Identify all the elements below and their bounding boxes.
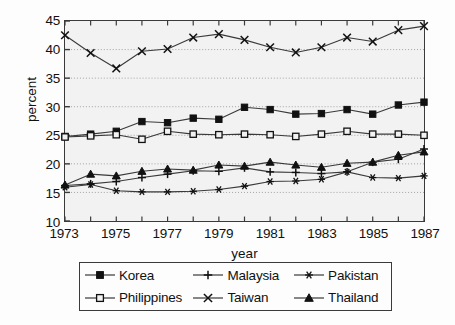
open-square-icon bbox=[84, 291, 116, 305]
y-tick-40: 40 bbox=[45, 41, 60, 56]
y-tick-15: 15 bbox=[45, 186, 60, 201]
x-tick-1981: 1981 bbox=[256, 226, 285, 241]
legend-item-taiwan[interactable]: Taiwan bbox=[192, 287, 293, 310]
legend-label: Pakistan bbox=[325, 268, 378, 283]
x-axis-tick-labels: 19731975197719791981198319851987 bbox=[64, 226, 425, 246]
x-tick-1973: 1973 bbox=[49, 226, 78, 241]
x-axis-title: year bbox=[64, 246, 425, 261]
asterisk-icon bbox=[293, 268, 325, 282]
chart-figure: 1015202530354045 percent 197319751977197… bbox=[0, 0, 455, 325]
y-tick-25: 25 bbox=[45, 128, 60, 143]
legend: KoreaMalaysiaPakistanPhilippinesTaiwanTh… bbox=[79, 262, 392, 311]
legend-label: Taiwan bbox=[224, 290, 268, 305]
legend-label: Malaysia bbox=[224, 268, 279, 283]
x-tick-1987: 1987 bbox=[410, 226, 439, 241]
plot-area bbox=[64, 20, 425, 222]
legend-item-malaysia[interactable]: Malaysia bbox=[192, 264, 293, 287]
y-axis-title: percent bbox=[24, 55, 39, 145]
x-tick-1985: 1985 bbox=[359, 226, 388, 241]
x-tick-1979: 1979 bbox=[204, 226, 233, 241]
legend-row: KoreaMalaysiaPakistan bbox=[84, 264, 387, 287]
legend-item-pakistan[interactable]: Pakistan bbox=[293, 264, 387, 287]
legend-label: Thailand bbox=[325, 290, 378, 305]
x-tick-1977: 1977 bbox=[153, 226, 182, 241]
legend-label: Philippines bbox=[116, 290, 182, 305]
plus-icon bbox=[192, 268, 224, 282]
y-tick-35: 35 bbox=[45, 70, 60, 85]
y-tick-20: 20 bbox=[45, 157, 60, 172]
data-series-layer bbox=[65, 21, 424, 221]
y-tick-45: 45 bbox=[45, 13, 60, 28]
filled-square-icon bbox=[84, 268, 116, 282]
x-tick-1975: 1975 bbox=[101, 226, 130, 241]
legend-row: PhilippinesTaiwanThailand bbox=[84, 287, 387, 310]
series-taiwan bbox=[61, 22, 428, 72]
legend-item-philippines[interactable]: Philippines bbox=[84, 287, 192, 310]
x-tick-1983: 1983 bbox=[307, 226, 336, 241]
legend-item-thailand[interactable]: Thailand bbox=[293, 287, 387, 310]
y-tick-30: 30 bbox=[45, 99, 60, 114]
legend-item-korea[interactable]: Korea bbox=[84, 264, 192, 287]
legend-label: Korea bbox=[116, 268, 154, 283]
cross-x-icon bbox=[192, 291, 224, 305]
filled-triangle-icon bbox=[293, 291, 325, 305]
